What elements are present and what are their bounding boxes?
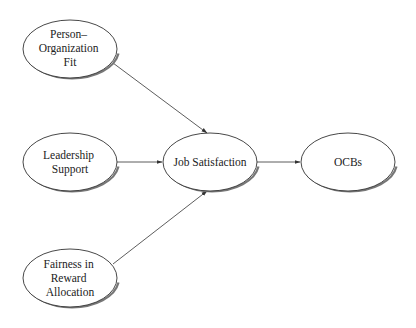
svg-text:OCBs: OCBs bbox=[334, 156, 363, 168]
node-label-line: Fairness in bbox=[43, 258, 93, 270]
edge-pof-to-js bbox=[113, 63, 207, 133]
node-label-line: Allocation bbox=[46, 286, 95, 298]
node-label-line: Job Satisfaction bbox=[173, 156, 246, 168]
node-fairness-in-reward-allocation: Fairness in Reward Allocation bbox=[23, 249, 119, 307]
diagram-canvas: Person– Organization Fit Leadership Supp… bbox=[0, 0, 416, 328]
svg-text:Fairness in Reward: Fairness in Reward Allocation bbox=[43, 258, 96, 298]
node-label-line: Support bbox=[52, 163, 89, 176]
node-label-line: Fit bbox=[64, 56, 78, 68]
node-person-organization-fit: Person– Organization Fit bbox=[23, 20, 119, 78]
node-label-line: OCBs bbox=[334, 156, 363, 168]
node-label-line: Reward bbox=[51, 272, 87, 284]
node-job-satisfaction: Job Satisfaction bbox=[163, 133, 259, 191]
node-leadership-support: Leadership Support bbox=[23, 133, 119, 191]
node-label-line: Organization bbox=[39, 42, 99, 55]
node-label-line: Leadership bbox=[43, 149, 94, 162]
svg-text:Job Satisfaction: Job Satisfaction bbox=[173, 156, 246, 168]
edge-fra-to-js bbox=[113, 191, 207, 264]
node-label-line: Person– bbox=[50, 28, 87, 40]
node-ocbs: OCBs bbox=[301, 133, 397, 191]
